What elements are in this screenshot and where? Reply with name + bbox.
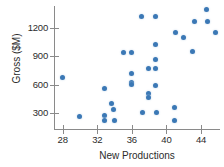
data-point	[213, 30, 218, 35]
data-point	[153, 57, 158, 62]
scatter-plot: 3006009001200 2832364044 Gross ($M) New …	[0, 0, 224, 167]
data-point	[129, 71, 134, 76]
x-axis-line	[54, 129, 220, 130]
x-tick-label: 40	[154, 134, 178, 145]
data-point	[60, 75, 65, 80]
x-tick-mark	[166, 125, 167, 134]
data-point	[129, 50, 134, 55]
data-point	[205, 19, 210, 24]
data-point	[181, 35, 186, 40]
data-point	[153, 42, 158, 47]
data-point	[153, 83, 158, 88]
y-tick-mark	[50, 28, 59, 29]
y-tick-mark	[50, 85, 59, 86]
data-point	[146, 66, 151, 71]
data-point	[140, 110, 145, 115]
x-tick-label: 44	[189, 134, 213, 145]
data-point	[173, 30, 178, 35]
data-point	[154, 110, 159, 115]
x-tick-label: 28	[51, 134, 75, 145]
data-point	[190, 49, 195, 54]
data-point	[112, 118, 117, 123]
data-point	[172, 118, 177, 123]
y-axis-title: Gross ($M)	[11, 9, 22, 109]
data-point	[139, 14, 144, 19]
data-point	[111, 107, 116, 112]
y-tick-label: 300	[33, 107, 48, 118]
data-point	[121, 50, 126, 55]
data-point	[153, 66, 158, 71]
data-point	[172, 105, 177, 110]
x-tick-mark	[201, 125, 202, 134]
data-point	[192, 19, 197, 24]
y-tick-label: 900	[33, 50, 48, 61]
y-tick-label: 1200	[28, 22, 48, 33]
x-tick-mark	[97, 125, 98, 134]
data-point	[109, 101, 114, 106]
y-tick-mark	[50, 113, 59, 114]
x-tick-label: 36	[120, 134, 144, 145]
data-point	[102, 86, 107, 91]
y-tick-mark	[50, 56, 59, 57]
y-axis-line	[54, 6, 55, 130]
data-point	[153, 14, 158, 19]
data-point	[102, 118, 107, 123]
y-tick-label: 600	[33, 79, 48, 90]
x-tick-mark	[63, 125, 64, 134]
x-tick-label: 32	[85, 134, 109, 145]
data-point	[146, 95, 151, 100]
x-tick-mark	[132, 125, 133, 134]
data-point	[204, 7, 209, 12]
data-point	[77, 114, 82, 119]
data-point	[129, 82, 134, 87]
x-axis-title: New Productions	[54, 150, 220, 161]
